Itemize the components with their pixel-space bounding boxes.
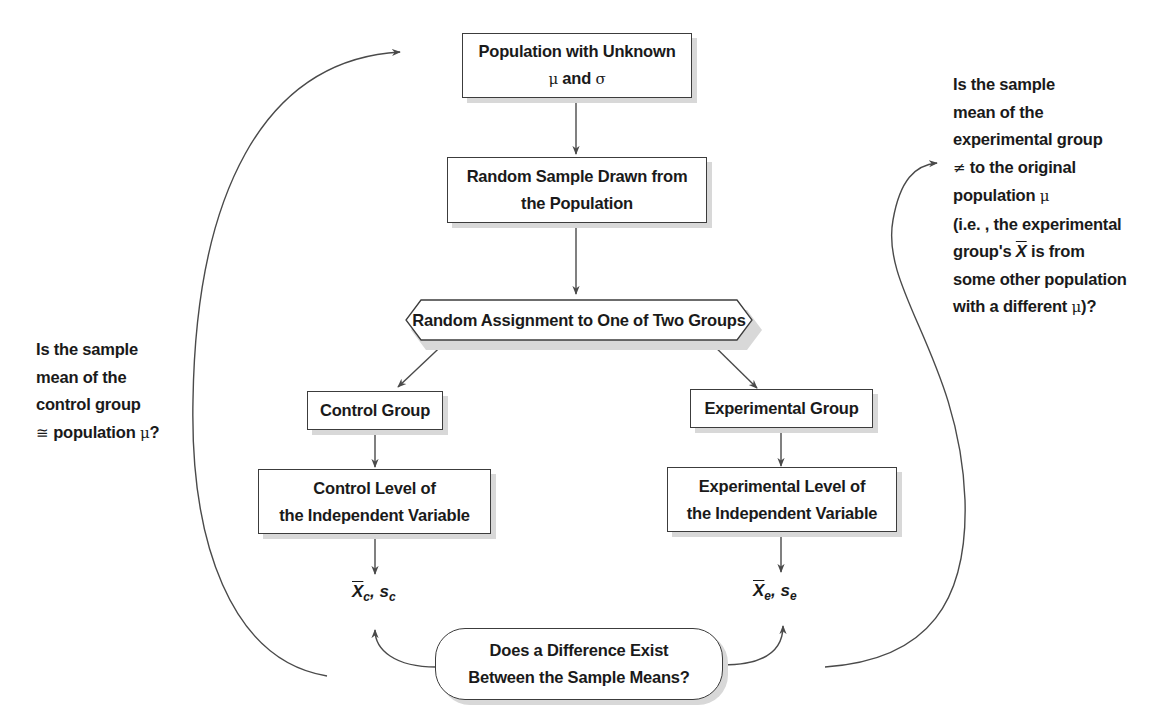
control-mean-symbol: X: [352, 582, 363, 601]
control-group-box: Control Group: [307, 391, 443, 430]
control-sd-symbol: s: [379, 582, 388, 601]
experimental-level-line1: Experimental Level of: [687, 473, 878, 500]
experimental-group-box: Experimental Group: [690, 389, 873, 428]
mu-symbol: μ: [548, 70, 558, 88]
sample-box: Random Sample Drawn from the Population: [447, 157, 707, 223]
sample-line2: the Population: [467, 190, 688, 217]
experimental-sd-symbol: s: [780, 581, 789, 600]
experimental-stats: Xe, se: [753, 581, 797, 603]
population-line1: Population with Unknown: [478, 38, 675, 65]
difference-line1: Does a Difference Exist: [490, 637, 669, 664]
control-level-line1: Control Level of: [279, 475, 470, 502]
population-line2: μ and σ: [478, 65, 675, 93]
control-group-question: Is the sample mean of the control group …: [36, 336, 159, 447]
sample-mean-symbol: X: [1016, 242, 1027, 260]
assignment-label: Random Assignment to One of Two Groups: [406, 300, 752, 340]
control-stats: Xc, sc: [352, 582, 396, 604]
mu-symbol: μ: [1040, 187, 1050, 205]
control-level-line2: the Independent Variable: [279, 502, 470, 529]
approx-equal-symbol: ≅: [36, 424, 49, 442]
difference-line2: Between the Sample Means?: [468, 664, 689, 691]
control-group-label: Control Group: [320, 397, 430, 424]
control-level-box: Control Level of the Independent Variabl…: [258, 469, 491, 534]
mu-symbol: μ: [1072, 298, 1082, 316]
sigma-symbol: σ: [596, 70, 606, 88]
difference-question-box: Does a Difference Exist Between the Samp…: [435, 628, 723, 700]
population-box: Population with Unknown μ and σ: [462, 33, 692, 98]
experimental-level-box: Experimental Level of the Independent Va…: [667, 467, 897, 532]
not-equal-symbol: ≠: [953, 159, 965, 177]
experimental-group-label: Experimental Group: [704, 395, 858, 422]
experimental-mean-symbol: X: [753, 581, 764, 600]
experimental-level-line2: the Independent Variable: [687, 500, 878, 527]
sample-line1: Random Sample Drawn from: [467, 163, 688, 190]
experimental-group-question: Is the sample mean of the experimental g…: [953, 71, 1127, 322]
